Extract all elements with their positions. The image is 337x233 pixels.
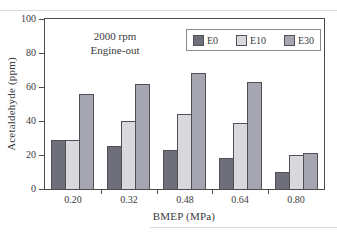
bar-E0-0.32 <box>107 146 122 189</box>
bar-E30-0.20 <box>79 94 94 189</box>
y-tick-label-0: 0 <box>0 183 36 195</box>
y-tick-label-60: 60 <box>0 81 36 93</box>
bar-E10-0.48 <box>177 114 192 189</box>
bar-E10-0.32 <box>121 121 136 189</box>
legend-label-E0: E0 <box>207 35 218 46</box>
y-tick-label-80: 80 <box>0 47 36 59</box>
bar-E30-0.64 <box>247 82 262 189</box>
x-minor-tick <box>101 190 102 194</box>
bar-E0-0.80 <box>275 172 290 189</box>
bar-group-0.20 <box>45 94 101 189</box>
legend-label-E30: E30 <box>298 35 314 46</box>
x-tick-label-0.80: 0.80 <box>274 194 318 205</box>
y-tick-mark-60 <box>39 87 44 88</box>
y-tick-mark-80 <box>39 53 44 54</box>
bar-E0-0.20 <box>51 140 66 189</box>
bar-E10-0.64 <box>233 123 248 189</box>
x-tick-label-0.48: 0.48 <box>163 194 207 205</box>
x-minor-tick <box>268 190 269 194</box>
bar-group-0.48 <box>157 73 213 189</box>
y-tick-mark-40 <box>39 121 44 122</box>
legend-swatch-E10 <box>236 35 247 46</box>
bar-E0-0.48 <box>163 150 178 189</box>
legend-item-E0: E0 <box>193 35 218 46</box>
bar-group-0.80 <box>268 153 324 189</box>
bar-E30-0.48 <box>191 73 206 189</box>
page-artifact-line-bottom <box>150 227 337 228</box>
legend-item-E10: E10 <box>236 35 266 46</box>
x-axis-label: BMEP (MPa) <box>153 210 215 222</box>
bar-E10-0.20 <box>65 140 80 189</box>
y-tick-label-20: 20 <box>0 149 36 161</box>
y-axis-label: Acetaldehyde (ppm) <box>5 57 17 151</box>
bar-group-0.64 <box>212 82 268 189</box>
legend-label-E10: E10 <box>250 35 266 46</box>
y-tick-label-40: 40 <box>0 115 36 127</box>
x-minor-tick <box>212 190 213 194</box>
x-minor-tick <box>157 190 158 194</box>
bar-E30-0.80 <box>303 153 318 189</box>
y-tick-mark-20 <box>39 155 44 156</box>
annotation: 2000 rpm Engine-out <box>91 29 140 57</box>
page-artifact-line-top <box>0 10 337 11</box>
y-tick-mark-0 <box>39 189 44 190</box>
legend-swatch-E0 <box>193 35 204 46</box>
legend-item-E30: E30 <box>284 35 314 46</box>
y-tick-mark-100 <box>39 19 44 20</box>
bar-E10-0.80 <box>289 155 304 189</box>
bar-E0-0.64 <box>219 158 234 189</box>
x-tick-label-0.64: 0.64 <box>218 194 262 205</box>
legend: E0E10E30 <box>186 29 321 51</box>
bar-E30-0.32 <box>135 84 150 189</box>
annotation-line-2: Engine-out <box>91 43 140 57</box>
legend-swatch-E30 <box>284 35 295 46</box>
figure: Acetaldehyde (ppm) 2000 rpm Engine-out E… <box>0 0 337 233</box>
y-tick-label-100: 100 <box>0 13 36 25</box>
bar-group-0.32 <box>101 84 157 189</box>
annotation-line-1: 2000 rpm <box>91 29 140 43</box>
x-tick-label-0.32: 0.32 <box>107 194 151 205</box>
x-tick-label-0.20: 0.20 <box>51 194 95 205</box>
